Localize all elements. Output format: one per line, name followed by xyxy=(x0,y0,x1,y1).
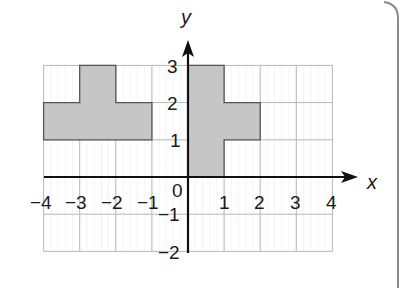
x-tick-label: −1 xyxy=(137,192,159,213)
x-axis-label: x xyxy=(366,171,378,193)
x-tick-label: −2 xyxy=(101,192,123,213)
coordinate-grid-figure: x y 0 −4 −3 −2 −1 1 2 3 4 3 2 1 −1 −2 xyxy=(0,0,410,288)
x-tick-label: 3 xyxy=(290,192,301,213)
x-tick-label: 2 xyxy=(254,192,265,213)
shape-right xyxy=(188,65,260,177)
y-axis-label: y xyxy=(179,6,192,28)
y-tick-label: 3 xyxy=(167,56,178,77)
y-tick-label: 1 xyxy=(170,130,181,151)
frame-border xyxy=(384,2,398,288)
x-tick-label: −3 xyxy=(65,192,87,213)
x-tick-label: 1 xyxy=(219,192,230,213)
y-tick-label: −1 xyxy=(158,204,180,225)
origin-label: 0 xyxy=(172,180,183,201)
x-tick-label: 4 xyxy=(326,192,337,213)
shape-left xyxy=(44,65,152,139)
y-tick-label: −2 xyxy=(158,242,180,263)
y-tick-label: 2 xyxy=(167,93,178,114)
x-tick-label: −4 xyxy=(30,192,52,213)
